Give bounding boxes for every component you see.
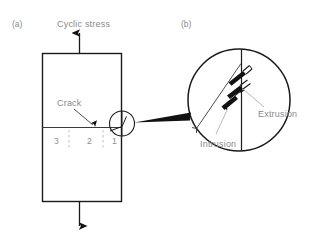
crack-leader-arrow bbox=[74, 109, 93, 125]
panel-a-group: (a) Cyclic stress Crack 3 2 1 bbox=[12, 19, 135, 226]
magnified-view-circle bbox=[188, 49, 290, 151]
extrusion-leader-arrow bbox=[243, 89, 264, 107]
fatigue-crack-initiation-diagram: (a) Cyclic stress Crack 3 2 1 bbox=[0, 0, 310, 245]
cyclic-stress-label: Cyclic stress bbox=[57, 19, 110, 29]
extrusion-label: Extrusion bbox=[258, 109, 297, 119]
panel-b-label: (b) bbox=[181, 19, 192, 29]
intrusion-label: Intrusion bbox=[200, 139, 236, 149]
region-label-1: 1 bbox=[112, 136, 117, 146]
crack-label: Crack bbox=[57, 98, 82, 108]
panel-a-label: (a) bbox=[12, 19, 23, 29]
magnifier-connector-wedge bbox=[134, 113, 191, 123]
panel-b-group: (b) bbox=[181, 19, 297, 151]
region-label-3: 3 bbox=[54, 136, 59, 146]
crack-tip-detail bbox=[110, 117, 127, 132]
figure-container: (a) Cyclic stress Crack 3 2 1 bbox=[0, 0, 310, 245]
intrusion-leader-arrow bbox=[216, 108, 228, 134]
slip-plane-base bbox=[192, 128, 197, 134]
region-label-2: 2 bbox=[87, 136, 92, 146]
slip-step-upper bbox=[229, 66, 253, 86]
slip-plane-line bbox=[197, 64, 242, 129]
